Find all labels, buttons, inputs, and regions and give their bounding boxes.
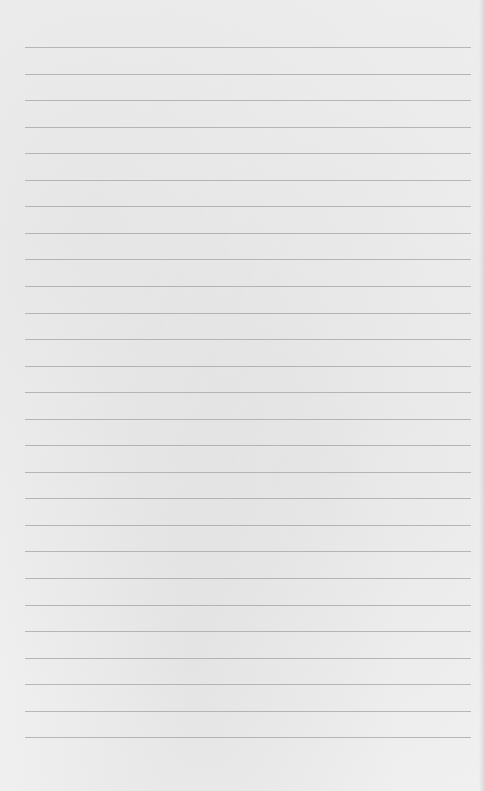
ruled-line [25,551,471,552]
ruled-line [25,153,471,154]
ruled-line [25,525,471,526]
ruled-line [25,419,471,420]
ruled-line [25,286,471,287]
lined-paper-sheet [0,0,485,791]
ruled-line [25,233,471,234]
ruled-line [25,445,471,446]
paper-edge-shadow [479,0,485,791]
ruled-line [25,578,471,579]
ruled-line [25,684,471,685]
ruled-line [25,366,471,367]
ruled-line [25,74,471,75]
ruled-line [25,658,471,659]
ruled-line [25,259,471,260]
ruled-line [25,711,471,712]
ruled-line [25,339,471,340]
ruled-line [25,180,471,181]
ruled-line [25,313,471,314]
ruled-line [25,472,471,473]
ruled-line [25,737,471,738]
ruled-line [25,392,471,393]
ruled-line [25,498,471,499]
ruled-line [25,100,471,101]
ruled-line [25,47,471,48]
ruled-line [25,206,471,207]
ruled-line [25,605,471,606]
ruled-line [25,127,471,128]
ruled-line [25,631,471,632]
